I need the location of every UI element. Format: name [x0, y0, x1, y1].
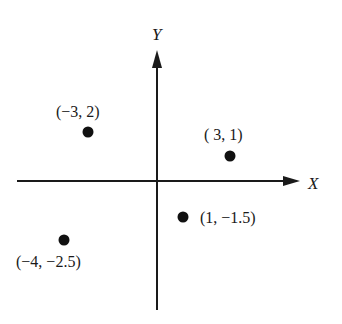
x-axis-arrow-icon	[283, 176, 300, 186]
point-label: (−3, 2)	[56, 103, 100, 121]
point-neg4-neg2.5: (−4, −2.5)	[16, 235, 81, 272]
coordinate-plane: X Y (−3, 2) ( 3, 1) (1, −1.5) (−4, −2.5)	[0, 0, 342, 324]
point-label: ( 3, 1)	[204, 126, 243, 144]
point-label: (1, −1.5)	[200, 209, 256, 227]
point-marker	[225, 151, 236, 162]
point-marker	[59, 235, 70, 246]
point-label: (−4, −2.5)	[16, 253, 81, 271]
point-neg3-2: (−3, 2)	[56, 103, 100, 138]
point-3-1: ( 3, 1)	[204, 126, 243, 162]
point-marker	[83, 127, 94, 138]
point-marker	[178, 212, 189, 223]
point-1-neg1.5: (1, −1.5)	[178, 209, 256, 227]
x-axis-label: X	[307, 174, 319, 193]
y-axis-arrow-icon	[152, 50, 162, 68]
y-axis-label: Y	[152, 25, 163, 44]
